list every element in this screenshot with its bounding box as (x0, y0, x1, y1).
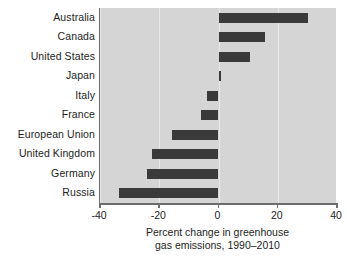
bar (207, 91, 219, 101)
category-label: France (0, 109, 95, 120)
x-axis-title-line-1: Percent change in greenhouse (99, 226, 336, 239)
x-tick-label: -40 (79, 209, 119, 221)
bar (219, 32, 265, 42)
bar (152, 149, 219, 159)
category-label: Australia (0, 12, 95, 23)
category-label: Russia (0, 187, 95, 198)
category-label: United States (0, 51, 95, 62)
x-tick-label: -20 (138, 209, 178, 221)
gridline-20 (278, 8, 279, 203)
category-label: Canada (0, 31, 95, 42)
plot-area (99, 8, 336, 203)
x-axis-title-line-2: gas emissions, 1990–2010 (99, 239, 336, 252)
category-label: United Kingdom (0, 148, 95, 159)
category-label: European Union (0, 129, 95, 140)
bar (201, 110, 219, 120)
bar (219, 52, 250, 62)
bar (219, 13, 309, 23)
x-tick (99, 203, 101, 208)
category-axis: AustraliaCanadaUnited StatesJapanItalyFr… (0, 8, 95, 203)
x-tick (336, 203, 338, 208)
x-tick-label: 0 (198, 209, 238, 221)
bar (119, 188, 219, 198)
bar (147, 169, 219, 179)
x-tick (218, 203, 220, 208)
bar (219, 71, 222, 81)
x-axis-title: Percent change in greenhouse gas emissio… (99, 226, 336, 252)
gridline--40 (100, 8, 101, 203)
bar (172, 130, 218, 140)
x-tick-label: 20 (257, 209, 297, 221)
category-label: Italy (0, 90, 95, 101)
category-label: Japan (0, 70, 95, 81)
category-label: Germany (0, 168, 95, 179)
x-tick-label: 40 (316, 209, 347, 221)
x-tick (277, 203, 279, 208)
x-tick (158, 203, 160, 208)
bar-chart-figure: AustraliaCanadaUnited StatesJapanItalyFr… (0, 0, 347, 259)
